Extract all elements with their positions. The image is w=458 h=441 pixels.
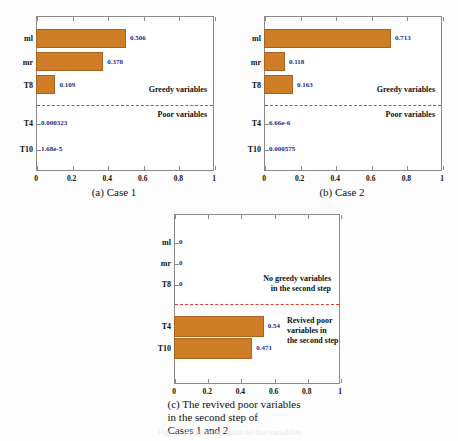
x-tick-label: 0: [34, 174, 38, 183]
x-tick-label: 0.2: [203, 387, 212, 396]
bar-value-t8: 0.163: [297, 81, 313, 89]
caption-text: (b) Case 2: [236, 186, 448, 199]
bar-value-t4: 6.66e-6: [269, 119, 290, 127]
bar-ml: [36, 29, 126, 48]
y-category-label-mr: mr: [141, 259, 171, 268]
y-category-label-t8: T8: [237, 80, 261, 89]
x-tick-mark: [144, 166, 145, 170]
y-category-label-t10: T10: [141, 344, 171, 353]
x-tick-mark: [372, 166, 373, 170]
x-tick-mark: [407, 166, 408, 170]
bar-value-ml: 0.506: [130, 34, 146, 42]
bar-ml: [264, 29, 391, 48]
caption-line-2: in the second step of: [168, 411, 301, 424]
bar-value-t10: 0.000575: [269, 145, 295, 153]
x-tick-mark: [265, 166, 266, 170]
caption-case-2: (b) Case 2: [236, 186, 448, 199]
x-tick-mark: [336, 17, 337, 21]
x-tick-mark: [241, 215, 242, 219]
x-tick-label: 0: [172, 387, 176, 396]
y-category-label-t4: T4: [237, 118, 261, 127]
annotation-poor-variables: Poor variables: [158, 110, 207, 120]
x-tick-mark: [265, 17, 266, 21]
x-tick-label: 0.6: [269, 387, 278, 396]
annotation-line: Revived poor: [287, 316, 369, 326]
x-tick-label: 1: [338, 387, 342, 396]
x-tick-label: 0.2: [295, 174, 304, 183]
x-tick-mark: [208, 215, 209, 219]
annotation-greedy-variables: Greedy variables: [149, 85, 207, 95]
bar-value-t10: 1.68e-5: [41, 145, 62, 153]
bar-value-mr: 0.118: [289, 58, 304, 66]
x-tick-mark: [108, 17, 109, 21]
annotation-greedy-variables: Greedy variables: [377, 85, 435, 95]
x-tick-mark: [215, 166, 216, 170]
x-tick-label: 0.6: [138, 174, 147, 183]
x-tick-mark: [275, 215, 276, 219]
y-category-label-t4: T4: [9, 118, 33, 127]
x-tick-mark: [108, 166, 109, 170]
bar-value-t8: 0.109: [59, 81, 75, 89]
x-tick-mark: [179, 17, 180, 21]
bar-value-mr: 0: [179, 259, 183, 267]
annotation-line: Greedy variables: [149, 85, 207, 95]
x-tick-label: 1: [212, 174, 216, 183]
y-category-label-t8: T8: [9, 80, 33, 89]
bar-mr: [36, 52, 103, 71]
figure-container: Greedy variablesPoor variables (a) Case …: [0, 0, 458, 441]
x-tick-mark: [341, 215, 342, 219]
y-category-label-t10: T10: [237, 144, 261, 153]
bar-t10: [174, 338, 252, 359]
bar-value-t10: 0.471: [256, 344, 272, 352]
annotation-line: No greedy variables: [263, 274, 331, 284]
x-tick-mark: [37, 166, 38, 170]
annotation-line: Poor variables: [386, 110, 435, 120]
x-tick-mark: [308, 215, 309, 219]
x-tick-mark: [175, 215, 176, 219]
x-tick-mark: [73, 17, 74, 21]
x-tick-label: 0: [262, 174, 266, 183]
panel-revived-poor-variables: No greedy variablesin the second stepRev…: [118, 206, 350, 436]
annotation-line: Poor variables: [158, 110, 207, 120]
bar-t4: [174, 316, 264, 337]
greedy-poor-divider: [37, 105, 213, 106]
x-tick-label: 0.6: [366, 174, 375, 183]
x-tick-mark: [179, 166, 180, 170]
y-category-label-t8: T8: [141, 279, 171, 288]
x-tick-mark: [215, 17, 216, 21]
x-tick-mark: [308, 379, 309, 383]
panel-case-2: Greedy variablesPoor variables (b) Case …: [236, 6, 448, 202]
annotation-line: variables in: [287, 326, 369, 336]
y-category-label-t4: T4: [141, 322, 171, 331]
x-tick-mark: [341, 379, 342, 383]
x-tick-mark: [301, 17, 302, 21]
caption-line-1: (c) The revived poor variables: [168, 398, 301, 411]
bar-t8: [36, 75, 55, 94]
y-category-label-ml: ml: [237, 34, 261, 43]
greedy-poor-divider: [265, 105, 441, 106]
x-tick-mark: [336, 166, 337, 170]
y-category-label-t10: T10: [9, 144, 33, 153]
x-tick-mark: [443, 166, 444, 170]
caption-case-1: (a) Case 1: [8, 186, 220, 199]
annotation-line: the second step: [287, 336, 369, 346]
panel-case-1: Greedy variablesPoor variables (a) Case …: [8, 6, 220, 202]
x-tick-mark: [73, 166, 74, 170]
x-tick-mark: [241, 379, 242, 383]
x-tick-label: 0.4: [331, 174, 340, 183]
bar-mr: [264, 52, 285, 71]
x-tick-mark: [372, 17, 373, 21]
annotation-line: in the second step: [263, 284, 331, 294]
x-tick-mark: [443, 17, 444, 21]
x-tick-label: 0.4: [236, 387, 245, 396]
bar-t8: [264, 75, 293, 94]
caption-text: (a) Case 1: [8, 186, 220, 199]
x-tick-mark: [144, 17, 145, 21]
page-footer-fragment: Fig. 9. Relative weights of the variable…: [0, 428, 458, 441]
annotation-no-greedy-variables: No greedy variablesin the second step: [263, 274, 331, 294]
annotation-revived-poor-variables: Revived poorvariables inthe second step: [287, 316, 369, 346]
annotation-poor-variables: Poor variables: [386, 110, 435, 120]
y-category-label-mr: mr: [237, 57, 261, 66]
bar-value-t8: 0: [179, 280, 183, 288]
bar-value-ml: 0: [179, 238, 183, 246]
